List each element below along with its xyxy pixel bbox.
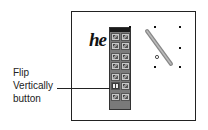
direct-selection-tool[interactable] (111, 42, 120, 50)
arrow-icon (113, 35, 118, 39)
callout-leader-line (57, 88, 110, 89)
flip-vertically-button[interactable] (111, 82, 120, 90)
distribute-icon (123, 95, 128, 99)
align-tool[interactable] (111, 93, 120, 101)
fill-icon (113, 64, 118, 68)
toolbox-title-bar[interactable] (110, 28, 130, 32)
rotation-center-icon[interactable] (155, 55, 158, 58)
distribute-tool[interactable] (121, 93, 130, 101)
callout-line-1: Flip (13, 67, 29, 79)
selection-handle[interactable] (154, 26, 156, 28)
zoom-tool[interactable] (121, 42, 130, 50)
selection-handle[interactable] (179, 26, 181, 28)
selection-handle[interactable] (179, 47, 181, 49)
align-icon (113, 95, 118, 99)
fill-tool[interactable] (111, 62, 120, 70)
text-tool[interactable] (121, 53, 130, 61)
stroke-icon (123, 64, 128, 68)
flip-vertical-icon (113, 84, 118, 88)
flip-horizontal-icon (123, 84, 128, 88)
pen-tool[interactable] (111, 53, 120, 61)
rectangle-icon (123, 35, 128, 39)
selection-tool[interactable] (111, 33, 120, 41)
stroke-tool[interactable] (121, 62, 130, 70)
callout-line-2: Vertically (13, 80, 53, 92)
pen-icon (113, 55, 118, 59)
scale-tool[interactable] (121, 73, 130, 81)
magnifier-icon (123, 44, 128, 48)
pointer-icon (113, 44, 118, 48)
selection-handle[interactable] (154, 66, 156, 68)
rotate-tool[interactable] (111, 73, 120, 81)
toolbox-palette[interactable] (109, 27, 131, 110)
close-icon[interactable] (129, 26, 131, 28)
callout-line-3: button (13, 93, 41, 105)
rectangle-tool[interactable] (121, 33, 130, 41)
diagonal-stroke-highlight (147, 31, 171, 64)
selected-object[interactable] (0, 0, 208, 130)
flip-horizontally-button[interactable] (121, 82, 130, 90)
text-icon (123, 55, 128, 59)
scale-icon (123, 75, 128, 79)
rotate-icon (113, 75, 118, 79)
selection-handle[interactable] (179, 66, 181, 68)
